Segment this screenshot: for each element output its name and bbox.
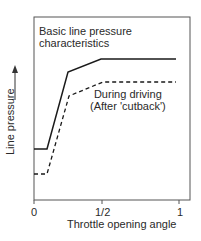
- annotation-line-2: (After 'cutback'): [90, 100, 166, 112]
- title-line-2: characteristics: [39, 37, 132, 49]
- x-tick-label-0: 0: [31, 206, 37, 218]
- chart-title: Basic line pressure characteristics: [39, 25, 132, 49]
- x-tick-label-1: 1: [177, 206, 183, 218]
- x-tick-label-half: 1/2: [95, 206, 110, 218]
- arrow-up-icon: [12, 65, 18, 73]
- y-axis-label: Line pressure: [4, 88, 16, 155]
- annotation-line-1: During driving: [90, 88, 166, 100]
- x-axis-label: Throttle opening angle: [67, 218, 176, 230]
- cutback-annotation: During driving (After 'cutback'): [90, 88, 166, 112]
- title-line-1: Basic line pressure: [39, 25, 132, 37]
